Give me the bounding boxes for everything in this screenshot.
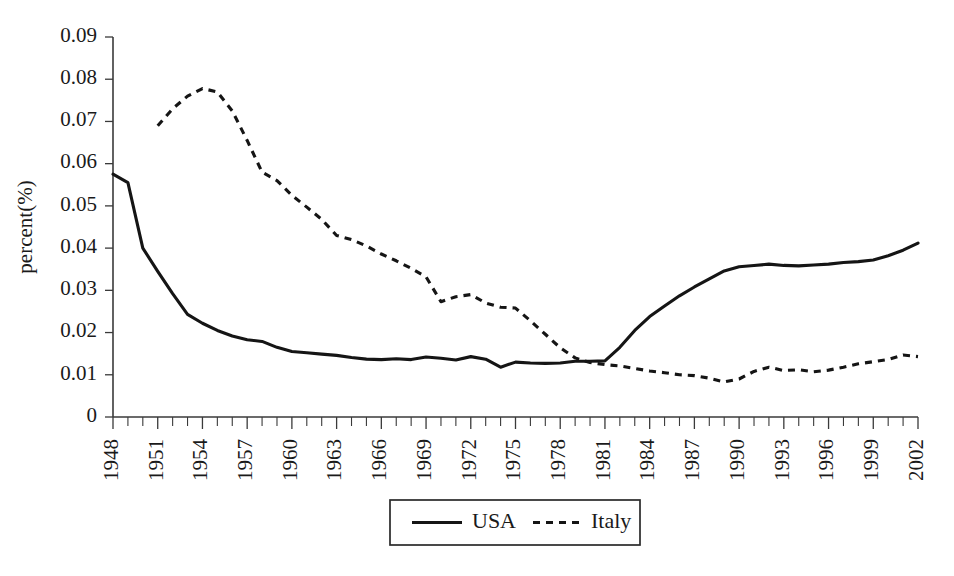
- x-tick-label: 1957: [233, 439, 257, 481]
- x-tick-label: 1987: [680, 439, 704, 481]
- y-axis-ticks: [105, 37, 113, 417]
- x-tick-label: 1948: [99, 439, 123, 481]
- series-line-italy: [158, 89, 918, 382]
- y-tick-label: 0.02: [60, 318, 97, 342]
- x-tick-label: 1984: [635, 439, 659, 482]
- legend-label-usa: USA: [472, 508, 516, 533]
- y-axis-tick-labels: 00.010.020.030.040.050.060.070.080.09: [60, 23, 97, 427]
- y-axis-title: percent(%): [13, 180, 37, 273]
- x-tick-label: 1966: [367, 439, 391, 481]
- x-tick-label: 1963: [322, 439, 346, 481]
- x-axis-tick-labels: 1948195119541957196019631966196919721975…: [99, 439, 928, 482]
- x-tick-label: 1972: [457, 439, 481, 481]
- series-line-usa: [113, 174, 918, 367]
- legend: USA Italy: [390, 500, 640, 545]
- x-tick-label: 1954: [188, 439, 212, 482]
- x-tick-label: 1969: [412, 439, 436, 481]
- x-tick-label: 1981: [591, 439, 615, 481]
- y-tick-label: 0.01: [60, 361, 97, 385]
- x-tick-label: 2002: [904, 439, 928, 481]
- x-tick-label: 1975: [501, 439, 525, 481]
- y-tick-label: 0.03: [60, 276, 97, 300]
- x-tick-label: 1996: [814, 439, 838, 481]
- chart-container: 00.010.020.030.040.050.060.070.080.09 pe…: [0, 0, 954, 576]
- y-tick-label: 0.08: [60, 65, 97, 89]
- x-tick-label: 1990: [725, 439, 749, 481]
- x-tick-label: 1951: [144, 439, 168, 481]
- x-tick-label: 1960: [278, 439, 302, 481]
- x-axis-group: 1948195119541957196019631966196919721975…: [99, 417, 928, 481]
- x-tick-label: 1999: [859, 439, 883, 481]
- x-tick-label: 1978: [546, 439, 570, 481]
- y-tick-label: 0.06: [60, 149, 97, 173]
- y-tick-label: 0.07: [60, 107, 97, 131]
- y-tick-label: 0: [87, 403, 98, 427]
- y-tick-label: 0.04: [60, 234, 97, 258]
- series-group: [113, 89, 918, 382]
- y-axis-group: 00.010.020.030.040.050.060.070.080.09 pe…: [13, 23, 113, 427]
- x-tick-label: 1993: [770, 439, 794, 481]
- legend-label-italy: Italy: [591, 508, 631, 533]
- y-tick-label: 0.05: [60, 192, 97, 216]
- y-tick-label: 0.09: [60, 23, 97, 47]
- x-axis-ticks: [113, 417, 918, 429]
- line-chart-svg: 00.010.020.030.040.050.060.070.080.09 pe…: [0, 0, 954, 576]
